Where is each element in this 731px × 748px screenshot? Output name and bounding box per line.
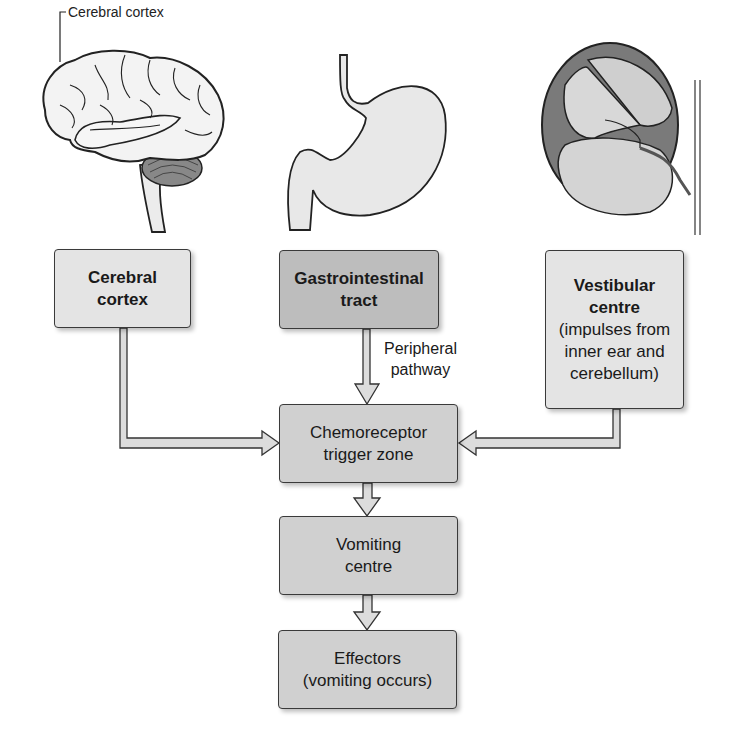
vestibular-title-2: centre	[589, 297, 640, 319]
arrow-vomiting-to-effectors	[354, 595, 380, 630]
chemoreceptor-trigger-zone-box: Chemoreceptor trigger zone	[279, 404, 458, 483]
vestibular-desc-2: inner ear and	[564, 341, 664, 363]
vomiting-line-2: centre	[345, 556, 392, 578]
vomiting-centre-box: Vomiting centre	[279, 516, 458, 595]
arrow-cortex-to-ctz	[120, 328, 279, 455]
peripheral-pathway-label: Peripheral pathway	[384, 338, 457, 380]
vestibular-centre-box: Vestibular centre (impulses from inner e…	[545, 250, 684, 409]
cerebral-cortex-title-1: Cerebral	[88, 267, 157, 289]
arrow-ctz-to-vomiting	[354, 483, 380, 516]
arrow-vestibular-to-ctz	[459, 409, 620, 455]
effectors-box: Effectors (vomiting occurs)	[278, 630, 457, 709]
effectors-line-2: (vomiting occurs)	[303, 670, 432, 692]
vomiting-line-1: Vomiting	[336, 534, 401, 556]
ctz-line-1: Chemoreceptor	[310, 422, 427, 444]
cerebral-cortex-box: Cerebral cortex	[54, 249, 191, 328]
effectors-line-1: Effectors	[334, 648, 401, 670]
vestibular-desc-1: (impulses from	[559, 319, 670, 341]
vestibular-title-1: Vestibular	[574, 275, 655, 297]
peripheral-label-1: Peripheral	[384, 338, 457, 359]
arrow-gi-to-ctz	[355, 329, 379, 404]
vestibular-desc-3: cerebellum)	[570, 363, 659, 385]
gi-tract-box: Gastrointestinal tract	[279, 250, 439, 329]
ctz-line-2: trigger zone	[324, 444, 414, 466]
gi-tract-title-1: Gastrointestinal	[294, 268, 423, 290]
gi-tract-title-2: tract	[341, 290, 378, 312]
peripheral-label-2: pathway	[384, 359, 457, 380]
cerebral-cortex-title-2: cortex	[97, 289, 148, 311]
